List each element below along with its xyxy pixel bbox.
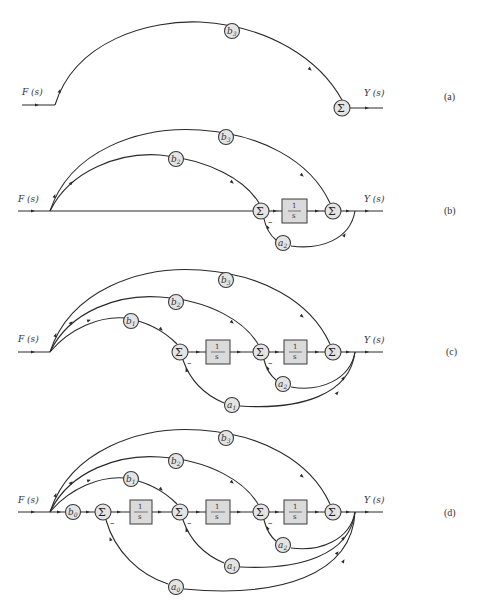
svg-text:Σ: Σ bbox=[337, 102, 345, 115]
svg-text:1: 1 bbox=[138, 503, 142, 511]
svg-text:s: s bbox=[292, 212, 296, 220]
input-label: F (s) bbox=[17, 495, 39, 505]
svg-text:–: – bbox=[110, 518, 115, 528]
panel-tag: (c) bbox=[446, 346, 457, 358]
svg-text:–: – bbox=[187, 358, 192, 368]
svg-text:Σ: Σ bbox=[328, 506, 336, 519]
svg-text:Σ: Σ bbox=[256, 506, 264, 519]
svg-text:Σ: Σ bbox=[328, 346, 336, 359]
svg-text:Σ: Σ bbox=[175, 346, 183, 359]
output-label: Y (s) bbox=[364, 88, 385, 98]
svg-text:Σ: Σ bbox=[98, 506, 106, 519]
svg-text:Σ: Σ bbox=[175, 506, 183, 519]
svg-text:s: s bbox=[138, 513, 142, 521]
output-label: Y (s) bbox=[364, 194, 385, 204]
b3-path bbox=[55, 22, 342, 105]
svg-text:1: 1 bbox=[215, 503, 219, 511]
svg-text:–: – bbox=[268, 358, 273, 368]
panel-tag: (d) bbox=[444, 507, 456, 519]
svg-text:s: s bbox=[293, 513, 297, 521]
panel-b: F (s) b3 b2 Σ – 1 s Σ bbox=[17, 130, 456, 251]
svg-text:1: 1 bbox=[215, 343, 219, 351]
svg-text:s: s bbox=[293, 353, 297, 361]
svg-text:1: 1 bbox=[292, 202, 296, 210]
svg-text:1: 1 bbox=[293, 343, 297, 351]
panel-c: F (s) b3 b2 b1 Σ – 1 s Σ – 1 s bbox=[17, 270, 457, 413]
svg-text:Σ: Σ bbox=[328, 205, 336, 218]
svg-text:s: s bbox=[215, 353, 219, 361]
panel-d: F (s) b3 b2 b1 b0 Σ – 1 s Σ – bbox=[17, 430, 456, 595]
panel-tag: (a) bbox=[444, 91, 455, 103]
input-label: F (s) bbox=[17, 334, 39, 344]
svg-text:–: – bbox=[187, 518, 192, 528]
input-label: F (s) bbox=[21, 87, 43, 97]
svg-text:s: s bbox=[215, 513, 219, 521]
panel-tag: (b) bbox=[444, 205, 456, 217]
svg-text:–: – bbox=[268, 217, 273, 227]
panel-a: F (s) b3 Σ Y (s) (a) bbox=[21, 22, 455, 116]
output-label: Y (s) bbox=[364, 495, 385, 505]
input-label: F (s) bbox=[17, 194, 39, 204]
svg-text:–: – bbox=[268, 518, 273, 528]
output-label: Y (s) bbox=[364, 335, 385, 345]
svg-text:Σ: Σ bbox=[256, 346, 264, 359]
svg-text:Σ: Σ bbox=[256, 205, 264, 218]
signal-flow-diagram: F (s) b3 Σ Y (s) (a) F (s) b3 b2 Σ – bbox=[0, 0, 483, 611]
svg-text:1: 1 bbox=[293, 503, 297, 511]
